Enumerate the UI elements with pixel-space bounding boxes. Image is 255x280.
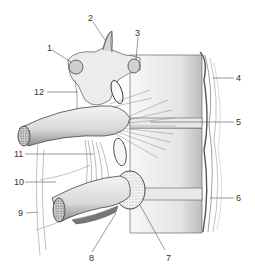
label-10: 10	[14, 178, 24, 187]
label-4: 4	[236, 74, 241, 83]
label-6: 6	[236, 194, 241, 203]
label-7: 7	[166, 254, 171, 263]
label-3: 3	[135, 29, 140, 38]
label-2: 2	[88, 14, 93, 23]
anatomical-illustration	[0, 0, 255, 280]
label-12: 12	[34, 88, 44, 97]
label-8: 8	[89, 254, 94, 263]
label-9: 9	[18, 209, 23, 218]
lower-rib	[52, 176, 130, 224]
label-1: 1	[47, 44, 52, 53]
vertebral-bodies	[130, 52, 222, 233]
vertebral-arch	[68, 31, 140, 110]
label-5: 5	[236, 118, 241, 127]
label-11: 11	[14, 150, 23, 159]
upper-rib	[18, 106, 130, 146]
